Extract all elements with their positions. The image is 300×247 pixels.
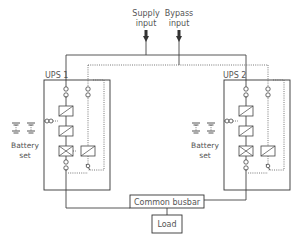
battery-set-1-label: Battery bbox=[11, 141, 39, 150]
common-busbar-label: Common busbar bbox=[134, 198, 201, 207]
bypass-input: Bypass input bbox=[165, 9, 194, 65]
svg-text:set: set bbox=[199, 151, 211, 160]
svg-text:set: set bbox=[19, 151, 31, 160]
svg-text:input: input bbox=[136, 19, 157, 28]
ups-2-label: UPS 2 bbox=[223, 71, 246, 80]
supply-input: Supply input bbox=[132, 9, 160, 55]
battery-icon bbox=[27, 123, 35, 133]
load-label: Load bbox=[157, 220, 176, 229]
ups-1: UPS 1 Battery set bbox=[11, 71, 110, 208]
battery-icon bbox=[12, 123, 20, 133]
battery-connector-icon bbox=[45, 119, 53, 123]
battery-icon bbox=[192, 123, 200, 133]
bypass-input-label: Bypass bbox=[165, 9, 194, 18]
battery-set-2-label: Battery bbox=[191, 141, 219, 150]
arrow-down-icon bbox=[143, 36, 149, 42]
common-busbar: Common busbar bbox=[130, 195, 204, 208]
load: Load bbox=[152, 215, 182, 233]
ups-1-label: UPS 1 bbox=[45, 71, 68, 80]
battery-connector-icon bbox=[225, 119, 233, 123]
ups-2: UPS 2 Battery set bbox=[191, 71, 290, 198]
ups-parallel-diagram: Supply input Bypass input UPS 1 bbox=[0, 0, 300, 247]
supply-input-label: Supply bbox=[132, 9, 160, 18]
svg-text:input: input bbox=[169, 19, 190, 28]
arrow-down-icon bbox=[176, 36, 182, 42]
battery-icon bbox=[207, 123, 215, 133]
